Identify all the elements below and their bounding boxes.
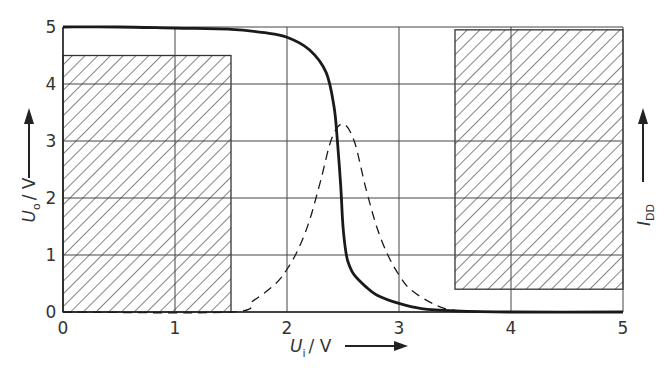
y2-axis-arrow-icon	[638, 108, 648, 182]
x-tick-label: 4	[506, 318, 517, 338]
y-tick-label: 3	[46, 131, 57, 151]
x-tick-label: 2	[282, 318, 293, 338]
x-tick-label: 1	[170, 318, 181, 338]
y-tick-label: 1	[46, 245, 57, 265]
y-axis-arrow-icon	[24, 108, 34, 178]
x-axis-arrow-icon	[345, 341, 408, 351]
shaded-regions	[63, 30, 623, 312]
y-tick-labels: 012345	[46, 17, 57, 322]
svg-text:Uo/ V: Uo/ V	[19, 177, 43, 222]
x-axis-label: Ui/ V	[290, 336, 408, 360]
chart: 012345 012345 Ui/ V Uo/ V IDD	[0, 0, 667, 377]
y-axis-label: Uo/ V	[19, 177, 43, 222]
forbidden-region-low-input	[63, 56, 231, 313]
y2-axis-label: IDD	[634, 204, 657, 226]
x-tick-label: 0	[58, 318, 69, 338]
x-tick-label: 3	[394, 318, 405, 338]
x-tick-labels: 012345	[58, 318, 629, 338]
y-tick-label: 2	[46, 188, 57, 208]
y-tick-label: 0	[46, 302, 57, 322]
y-tick-label: 4	[46, 74, 57, 94]
forbidden-region-high-input	[455, 30, 623, 289]
y-tick-label: 5	[46, 17, 57, 37]
svg-text:IDD: IDD	[634, 204, 657, 226]
x-tick-label: 5	[618, 318, 629, 338]
svg-text:Ui/ V: Ui/ V	[290, 336, 332, 360]
